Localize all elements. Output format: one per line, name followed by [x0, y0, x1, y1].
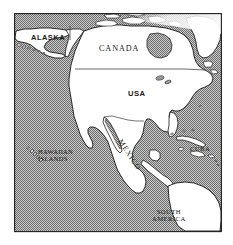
map-canvas [0, 0, 233, 245]
map-figure: ALASKA CANADA USA MEXICO HAWAIIAN ISLAND… [0, 0, 233, 245]
map-body [14, 13, 222, 232]
atlantic-specks [199, 105, 201, 106]
